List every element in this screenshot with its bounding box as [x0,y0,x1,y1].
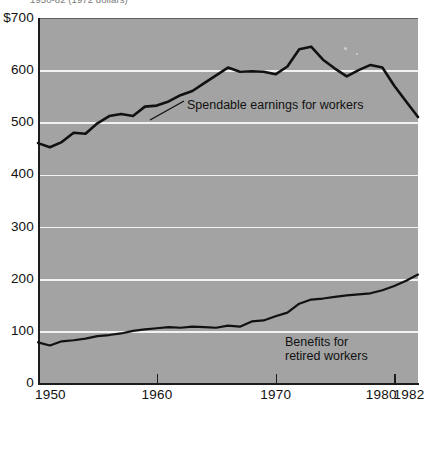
y-axis-tick-label: 600 [11,62,34,77]
scan-speck [344,47,347,50]
y-axis-tick-label: 300 [11,219,34,234]
y-axis-tick-label: $700 [3,10,34,25]
x-axis-tick-label: 1980 [366,387,397,402]
scan-speck [356,53,358,55]
x-axis-tick-label: 1970 [260,387,291,402]
x-axis-tick [276,374,277,384]
y-axis-tick-label: 200 [11,271,34,286]
y-axis-tick-label: 100 [11,323,34,338]
x-axis-tick-label: 1960 [142,387,173,402]
y-axis-tick-label: 500 [11,114,34,129]
y-axis-labels: $7006005004003002001000 [0,0,34,451]
x-axis-tick-label: 1950 [35,387,66,402]
x-axis-tick [38,374,39,384]
series-label-benefits: Benefits for retired workers [285,335,368,363]
chart-figure: 1950-82 (1972 dollars) $7006005004003002… [0,0,427,451]
x-axis-tick-label: 1982 [394,387,425,402]
y-axis-tick-label: 0 [26,375,34,390]
x-axis-tick [394,374,395,384]
leader-line-spendable [150,101,184,120]
data-lines [0,0,427,451]
x-axis-tick [157,374,158,384]
y-axis-tick-label: 400 [11,166,34,181]
line-spendable-earnings [38,47,418,148]
series-label-spendable: Spendable earnings for workers [187,98,364,112]
